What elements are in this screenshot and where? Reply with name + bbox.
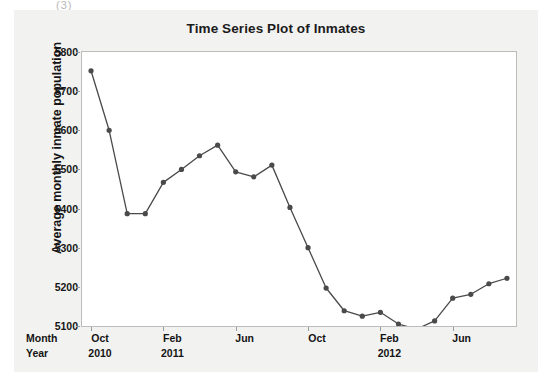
x-tick-label: Feb [163, 332, 182, 344]
y-tick-label: 5200 [34, 281, 78, 293]
x-tick-mark [91, 327, 92, 331]
y-tick-label: 5800 [34, 46, 78, 58]
x-tick-mark [236, 327, 237, 331]
chart-title: Time Series Plot of Inmates [14, 21, 538, 36]
data-point [143, 211, 148, 216]
x-tick-label: 2010 [88, 347, 111, 359]
scan-artifact-text: (3) [56, 0, 78, 10]
data-point [324, 285, 329, 290]
data-point [233, 169, 238, 174]
y-tick-mark [76, 287, 80, 288]
x-tick-label: 2012 [378, 347, 401, 359]
y-tick-mark [76, 130, 80, 131]
data-point [161, 180, 166, 185]
y-tick-mark [76, 52, 80, 53]
data-point [342, 308, 347, 313]
y-tick-mark [76, 248, 80, 249]
y-tick-mark [76, 91, 80, 92]
data-point [287, 205, 292, 210]
x-tick-mark [308, 327, 309, 331]
plot-area [81, 51, 517, 327]
y-tick-label: 5400 [34, 203, 78, 215]
series-line-chart [82, 52, 516, 326]
axis-row-name-year: Year [26, 347, 78, 359]
y-axis-ticks: 51005200530054005500560057005800 [28, 51, 78, 327]
x-tick-label: Jun [452, 332, 471, 344]
x-axis-label-rows: MonthOctFebJunOctFebJunYear201020112012 [14, 332, 538, 366]
y-tick-label: 5700 [34, 85, 78, 97]
data-point [450, 296, 455, 301]
y-tick-mark [76, 209, 80, 210]
x-tick-label: Feb [380, 332, 399, 344]
data-point [468, 292, 473, 297]
x-tick-label: Oct [91, 332, 109, 344]
data-point [125, 211, 130, 216]
scanned-page: (3) Time Series Plot of Inmates Average … [0, 0, 552, 383]
data-point [486, 281, 491, 286]
data-point [378, 310, 383, 315]
data-point [215, 143, 220, 148]
data-point [269, 163, 274, 168]
series-line [91, 71, 507, 326]
x-tick-mark [380, 327, 381, 331]
data-point [432, 318, 437, 323]
data-point [251, 174, 256, 179]
data-point [360, 314, 365, 319]
x-tick-label: Jun [235, 332, 254, 344]
data-point [197, 153, 202, 158]
y-tick-label: 5100 [34, 320, 78, 332]
y-tick-label: 5500 [34, 163, 78, 175]
series-markers [88, 68, 509, 326]
data-point [107, 128, 112, 133]
x-tick-label: Oct [308, 332, 326, 344]
y-tick-mark [76, 326, 80, 327]
y-tick-label: 5600 [34, 124, 78, 136]
data-point [504, 276, 509, 281]
y-tick-mark [76, 169, 80, 170]
data-point [179, 167, 184, 172]
x-tick-mark [163, 327, 164, 331]
x-tick-mark [453, 327, 454, 331]
x-tick-label: 2011 [161, 347, 184, 359]
axis-row-name-month: Month [26, 332, 78, 344]
data-point [88, 68, 93, 73]
chart-figure: Time Series Plot of Inmates Average mont… [14, 10, 538, 372]
data-point [305, 245, 310, 250]
y-tick-label: 5300 [34, 242, 78, 254]
